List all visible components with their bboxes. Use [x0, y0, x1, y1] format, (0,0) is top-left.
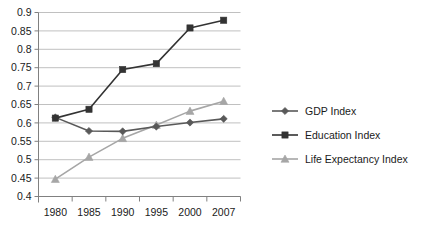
legend-item-education-index: Education Index: [272, 129, 381, 141]
legend-item-gdp-index: GDP Index: [272, 105, 357, 117]
marker-square: [187, 25, 193, 31]
series-line: [55, 101, 223, 179]
legend-label: Life Expectancy Index: [305, 153, 408, 165]
marker-square: [221, 17, 227, 23]
y-axis-ticks: [35, 13, 39, 197]
y-axis-tick-label: 0.65: [11, 98, 32, 110]
axis-lines: [39, 13, 241, 203]
y-axis-tick-label: 0.6: [17, 117, 32, 129]
x-axis-labels: 198019851990199520002007: [44, 206, 236, 218]
marker-diamond: [220, 115, 227, 122]
chart-canvas: 0.90.850.80.750.70.650.60.550.50.450.4 1…: [0, 0, 423, 248]
series-education-index: [52, 17, 227, 121]
y-axis-tick-label: 0.5: [17, 153, 32, 165]
x-axis-tick-label: 1980: [44, 206, 68, 218]
marker-diamond: [119, 128, 126, 135]
x-axis-tick-label: 1995: [145, 206, 169, 218]
y-axis-tick-label: 0.55: [11, 135, 32, 147]
y-axis-tick-label: 0.75: [11, 61, 32, 73]
marker-triangle: [51, 175, 59, 182]
data-series-layer: [51, 17, 227, 182]
y-axis-tick-label: 0.8: [17, 43, 32, 55]
marker-square: [153, 61, 159, 67]
x-axis-tick-label: 2007: [212, 206, 236, 218]
legend-label: GDP Index: [305, 105, 357, 117]
x-axis-ticks: [39, 197, 241, 202]
series-line: [55, 20, 223, 118]
marker-triangle: [220, 97, 228, 104]
y-axis-labels: 0.90.850.80.750.70.650.60.550.50.450.4: [11, 6, 32, 202]
x-axis-tick-label: 1985: [77, 206, 101, 218]
y-axis-tick-label: 0.85: [11, 25, 32, 37]
marker-square: [282, 132, 288, 138]
legend-label: Education Index: [305, 129, 381, 141]
y-axis-tick-label: 0.9: [17, 6, 32, 18]
series-life-expectancy-index: [51, 97, 227, 182]
marker-diamond: [281, 107, 288, 114]
chart-legend: GDP IndexEducation IndexLife Expectancy …: [272, 105, 408, 165]
series-line: [55, 117, 223, 131]
x-axis-tick-label: 1990: [111, 206, 135, 218]
marker-diamond: [85, 127, 92, 134]
y-axis-tick-label: 0.7: [17, 80, 32, 92]
marker-square: [120, 66, 126, 72]
line-chart: 0.90.850.80.750.70.650.60.550.50.450.4 1…: [0, 0, 423, 248]
marker-triangle: [85, 153, 93, 160]
marker-diamond: [186, 119, 193, 126]
marker-square: [52, 115, 58, 121]
y-axis-tick-label: 0.4: [17, 190, 32, 202]
x-axis-tick-label: 2000: [178, 206, 202, 218]
marker-square: [86, 106, 92, 112]
y-axis-tick-label: 0.45: [11, 172, 32, 184]
legend-item-life-expectancy-index: Life Expectancy Index: [272, 153, 408, 165]
